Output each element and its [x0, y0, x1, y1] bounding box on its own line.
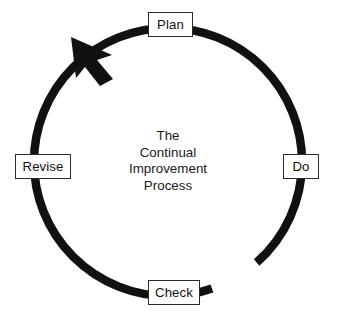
cycle-node-revise[interactable]: Revise: [15, 154, 71, 179]
cycle-node-check[interactable]: Check: [148, 280, 200, 305]
cycle-node-revise-label: Revise: [23, 160, 64, 173]
center-title-line-4: Process: [108, 178, 228, 195]
cycle-node-plan[interactable]: Plan: [148, 12, 193, 37]
cycle-node-do-label: Do: [292, 160, 309, 173]
cycle-node-plan-label: Plan: [157, 18, 184, 31]
center-title-line-1: The: [108, 128, 228, 145]
diagram-center-title: The Continual Improvement Process: [108, 128, 228, 194]
cycle-node-check-label: Check: [155, 286, 193, 299]
cycle-node-do[interactable]: Do: [283, 154, 319, 179]
center-title-line-2: Continual: [108, 145, 228, 162]
diagram-canvas: Plan Do Check Revise The Continual Impro…: [0, 0, 343, 323]
center-title-line-3: Improvement: [108, 161, 228, 178]
